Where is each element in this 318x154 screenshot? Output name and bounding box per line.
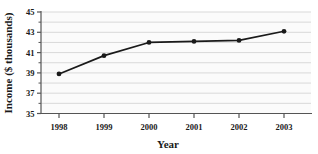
line-chart: 353739414345 199819992000200120022003 In… — [0, 0, 318, 154]
x-tick-label: 1998 — [51, 122, 68, 132]
y-tick-label: 45 — [26, 7, 35, 17]
x-tick-label: 2003 — [276, 122, 293, 132]
data-point — [102, 53, 107, 58]
data-point — [147, 40, 152, 45]
x-axis-ticks: 199819992000200120022003 — [51, 114, 293, 132]
y-axis-title: Income ($ thousands) — [2, 12, 15, 113]
x-tick-label: 2001 — [186, 122, 203, 132]
y-tick-label: 39 — [26, 68, 35, 78]
y-tick-label: 37 — [26, 88, 35, 98]
y-tick-label: 43 — [26, 27, 35, 37]
x-tick-label: 1999 — [96, 122, 113, 132]
data-point — [282, 29, 287, 34]
x-axis-title: Year — [157, 138, 179, 150]
y-tick-label: 35 — [26, 109, 35, 119]
data-point — [237, 38, 242, 43]
y-axis-ticks: 353739414345 — [26, 7, 41, 119]
chart-canvas: 353739414345 199819992000200120022003 In… — [0, 0, 318, 154]
data-point — [57, 72, 62, 77]
data-point — [192, 39, 197, 44]
x-tick-label: 2002 — [231, 122, 248, 132]
x-tick-label: 2000 — [141, 122, 158, 132]
y-tick-label: 41 — [26, 48, 35, 58]
